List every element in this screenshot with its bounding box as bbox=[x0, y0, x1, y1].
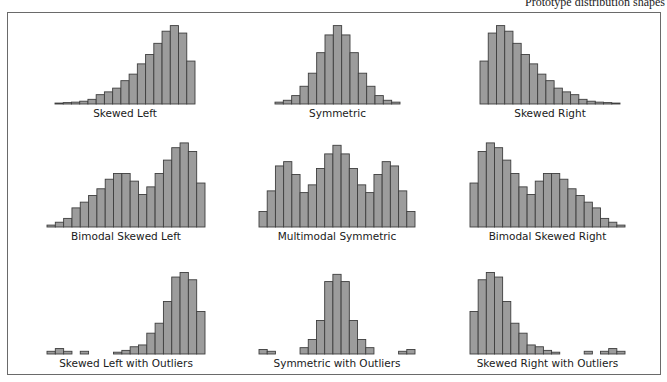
histogram-bar bbox=[366, 348, 374, 354]
histogram-bar bbox=[470, 183, 478, 227]
histogram-bar bbox=[584, 351, 592, 354]
histogram-bar bbox=[519, 333, 527, 354]
histogram-bar bbox=[122, 173, 130, 227]
histogram-title: Symmetric with Outliers bbox=[274, 357, 401, 369]
histogram-bar bbox=[576, 195, 584, 227]
histogram-bar bbox=[130, 347, 138, 354]
histogram-title: Bimodal Skewed Right bbox=[489, 230, 607, 242]
histogram-bar bbox=[349, 169, 357, 227]
histogram-bar bbox=[197, 311, 205, 354]
histogram-bar bbox=[478, 152, 486, 227]
histogram-bar bbox=[617, 351, 625, 354]
histogram-bar bbox=[535, 181, 543, 227]
histogram-bar bbox=[390, 166, 398, 227]
histogram-grid: Skewed LeftSymmetricSkewed RightBimodal … bbox=[0, 0, 667, 382]
histogram-bar bbox=[63, 103, 71, 104]
histogram-bar bbox=[478, 280, 486, 354]
histogram-multimodal-symmetric: Multimodal Symmetric bbox=[259, 145, 415, 242]
histogram-bar bbox=[486, 143, 494, 227]
histogram-bar bbox=[503, 160, 511, 227]
histogram-bar bbox=[147, 333, 155, 354]
histogram-bar bbox=[571, 95, 579, 104]
histogram-bar bbox=[399, 191, 407, 227]
histogram-bar bbox=[568, 189, 576, 227]
histogram-title: Multimodal Symmetric bbox=[278, 230, 397, 242]
histogram-title: Skewed Left with Outliers bbox=[59, 357, 193, 369]
histogram-bar bbox=[341, 154, 349, 227]
histogram-bar bbox=[407, 212, 415, 227]
histogram-bar bbox=[584, 202, 592, 227]
histogram-bar bbox=[292, 175, 300, 227]
histogram-bar bbox=[546, 81, 554, 104]
histogram-bar bbox=[601, 351, 609, 354]
histogram-bar bbox=[55, 222, 63, 227]
histogram-bar bbox=[494, 277, 502, 354]
histogram-bar bbox=[480, 61, 488, 104]
histogram-bar bbox=[80, 351, 88, 354]
histogram-bar bbox=[64, 218, 72, 227]
histogram-bar bbox=[513, 43, 521, 104]
histogram-bar bbox=[170, 26, 178, 104]
histogram-bar bbox=[267, 191, 275, 227]
histogram-bar bbox=[71, 102, 79, 104]
histogram-bar bbox=[503, 301, 511, 354]
histogram-bar bbox=[609, 349, 617, 354]
histogram-symmetric: Symmetric bbox=[275, 26, 400, 119]
histogram-bar bbox=[138, 345, 146, 354]
histogram-bar bbox=[382, 162, 390, 227]
histogram-bar bbox=[325, 282, 333, 354]
histogram-bar bbox=[129, 74, 137, 104]
histogram-bar bbox=[486, 273, 494, 354]
histogram-title: Skewed Right with Outliers bbox=[477, 357, 619, 369]
histogram-bar bbox=[511, 323, 519, 354]
histogram-bar bbox=[162, 31, 170, 104]
histogram-bar bbox=[147, 187, 155, 227]
histogram-bar bbox=[383, 100, 391, 104]
histogram-bar bbox=[308, 185, 316, 227]
histogram-bar bbox=[579, 99, 587, 104]
histogram-skewed-right-with-outliers: Skewed Right with Outliers bbox=[470, 273, 625, 369]
histogram-bar bbox=[89, 195, 97, 227]
histogram-bar bbox=[300, 348, 308, 354]
histogram-bar bbox=[374, 175, 382, 227]
histogram-bar bbox=[358, 73, 366, 104]
histogram-bar bbox=[114, 352, 122, 354]
histogram-bar bbox=[155, 323, 163, 354]
histogram-bar bbox=[617, 225, 625, 227]
histogram-bar bbox=[399, 351, 407, 354]
histogram-bar bbox=[130, 181, 138, 227]
histogram-bar bbox=[407, 349, 415, 354]
histogram-bar bbox=[180, 143, 188, 227]
histogram-bar bbox=[146, 55, 154, 104]
histogram-bar bbox=[72, 208, 80, 227]
histogram-bar bbox=[114, 173, 122, 227]
histogram-bar bbox=[587, 101, 595, 104]
histogram-bar bbox=[80, 101, 88, 104]
histogram-bar bbox=[358, 185, 366, 227]
histogram-bar bbox=[554, 88, 562, 104]
histogram-title: Symmetric bbox=[309, 107, 366, 119]
histogram-bar bbox=[543, 173, 551, 227]
histogram-bar bbox=[595, 102, 603, 104]
histogram-bar bbox=[511, 173, 519, 227]
histogram-bar bbox=[612, 103, 620, 104]
histogram-bar bbox=[538, 74, 546, 104]
histogram-bar bbox=[333, 26, 341, 104]
histogram-bar bbox=[367, 86, 375, 104]
histogram-bar bbox=[300, 86, 308, 104]
histogram-bar bbox=[47, 351, 55, 354]
histogram-bar bbox=[470, 311, 478, 354]
histogram-bar bbox=[179, 33, 187, 104]
histogram-bar bbox=[317, 53, 325, 104]
histogram-bimodal-skewed-right: Bimodal Skewed Right bbox=[470, 143, 625, 242]
histogram-bar bbox=[366, 193, 374, 227]
histogram-bar bbox=[163, 301, 171, 354]
histogram-bar bbox=[494, 148, 502, 227]
histogram-title: Skewed Right bbox=[514, 107, 586, 119]
histogram-title: Skewed Left bbox=[93, 107, 157, 119]
histogram-bar bbox=[560, 179, 568, 227]
histogram-bar bbox=[154, 43, 162, 104]
histogram-bar bbox=[55, 103, 63, 104]
histogram-bar bbox=[113, 88, 121, 104]
histogram-bar bbox=[96, 95, 104, 104]
